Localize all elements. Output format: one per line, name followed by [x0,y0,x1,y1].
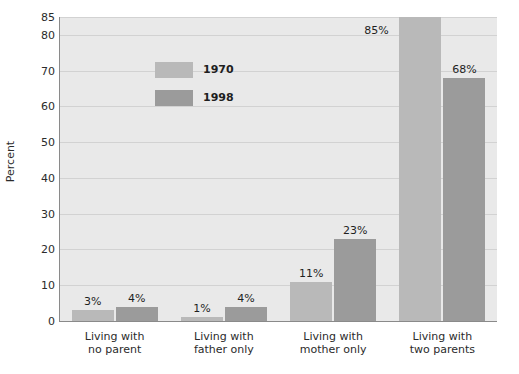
category-label-line: mother only [273,343,393,356]
x-axis-category-label: Living withno parent [55,330,175,356]
category-label-line: father only [164,343,284,356]
category-label-line: Living with [382,330,502,343]
category-label-line: Living with [55,330,175,343]
legend-label-1970: 1970 [203,62,234,78]
x-axis-category-label: Living withtwo parents [382,330,502,356]
legend-swatch-1970 [155,62,193,78]
category-label-line: two parents [382,343,502,356]
category-label-line: Living with [164,330,284,343]
category-label-line: Living with [273,330,393,343]
x-axis-category-label: Living withmother only [273,330,393,356]
bar-chart: 3%4%1%4%11%23%85%68% 0102030405060708085… [0,0,519,374]
x-axis-category-label: Living withfather only [164,330,284,356]
legend-label-1998: 1998 [203,90,234,106]
legend-swatch-1998 [155,90,193,106]
x-axis-category-labels: Living withno parentLiving withfather on… [0,0,519,374]
category-label-line: no parent [55,343,175,356]
